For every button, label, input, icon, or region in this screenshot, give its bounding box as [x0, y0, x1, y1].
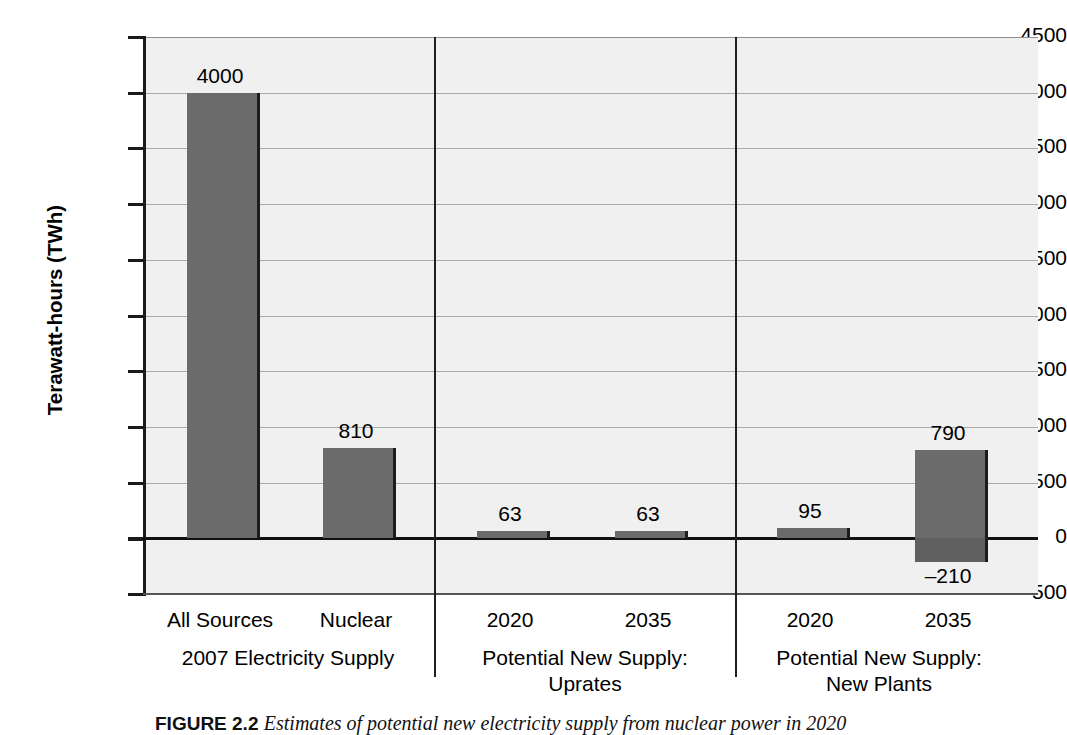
- gridline: [146, 316, 1038, 317]
- gridline: [146, 371, 1038, 372]
- category-label-3: 2035: [558, 608, 738, 632]
- group-label-1: Potential New Supply:Uprates: [415, 645, 755, 696]
- y-axis-title: Terawatt-hours (TWh): [43, 100, 67, 520]
- bar-value-nuclear: 810: [296, 419, 416, 443]
- gridline: [146, 483, 1038, 484]
- bar-uprates-2020: [477, 531, 550, 538]
- bar-newplants-2035-negative: [915, 538, 988, 561]
- gridline: [146, 148, 1038, 149]
- bar-all-sources: [187, 93, 260, 539]
- group-label-line1: Potential New Supply:: [415, 645, 755, 671]
- figure-caption: FIGURE 2.2 Estimates of potential new el…: [155, 712, 1067, 735]
- bar-value-newplants-2035-negative: –210: [888, 564, 1008, 588]
- group-label-2: Potential New Supply:New Plants: [709, 645, 1049, 696]
- gridline: [146, 37, 1038, 38]
- bar-newplants-2020: [777, 528, 850, 539]
- caption-text: Estimates of potential new electricity s…: [264, 712, 847, 734]
- group-label-line1: 2007 Electricity Supply: [118, 645, 458, 671]
- zero-line: [143, 537, 1038, 540]
- group-separator-2: [735, 37, 737, 677]
- bar-newplants-2035: [915, 450, 988, 538]
- gridline: [146, 93, 1038, 94]
- bar-value-all-sources: 4000: [160, 64, 280, 88]
- group-label-line2: New Plants: [709, 671, 1049, 697]
- group-label-line2: Uprates: [415, 671, 755, 697]
- group-label-0: 2007 Electricity Supply: [118, 645, 458, 671]
- bar-uprates-2035: [615, 531, 688, 538]
- group-separator-1: [434, 37, 436, 677]
- caption-figure-number: FIGURE 2.2: [155, 713, 258, 734]
- bar-value-uprates-2020: 63: [450, 502, 570, 526]
- bar-nuclear: [323, 448, 396, 538]
- bar-value-newplants-2020: 95: [750, 499, 870, 523]
- category-label-5: 2035: [858, 608, 1038, 632]
- gridline: [146, 204, 1038, 205]
- plot-bottom-border: [143, 593, 1038, 595]
- category-label-1: Nuclear: [266, 608, 446, 632]
- bar-value-newplants-2035: 790: [888, 421, 1008, 445]
- group-label-line1: Potential New Supply:: [709, 645, 1049, 671]
- gridline: [146, 260, 1038, 261]
- bar-value-uprates-2035: 63: [588, 502, 708, 526]
